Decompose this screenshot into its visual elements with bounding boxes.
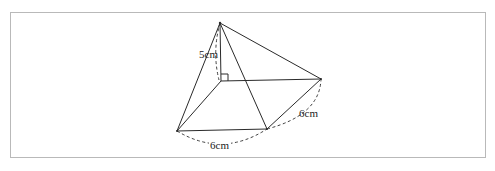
foot-to-right-vertex [221, 79, 321, 81]
base-front-edge [177, 129, 267, 131]
edge-apex-left [177, 23, 220, 131]
vertex-left [176, 130, 178, 132]
base-right-edge [267, 79, 321, 129]
right-angle-marker [221, 74, 228, 81]
height-label: 5cm [199, 48, 218, 60]
vertex-front-right [266, 128, 268, 130]
foot-to-left-vertex [177, 81, 221, 131]
front-edge-label: 6cm [210, 139, 229, 151]
pyramid-diagram: 5cm 6cm 6cm [0, 0, 495, 171]
right-edge-label: 6cm [299, 107, 318, 119]
apex-point [219, 22, 221, 24]
edge-apex-front-right [220, 23, 267, 129]
height-line [220, 23, 221, 81]
edge-apex-right [220, 23, 321, 79]
vertex-right [320, 78, 322, 80]
